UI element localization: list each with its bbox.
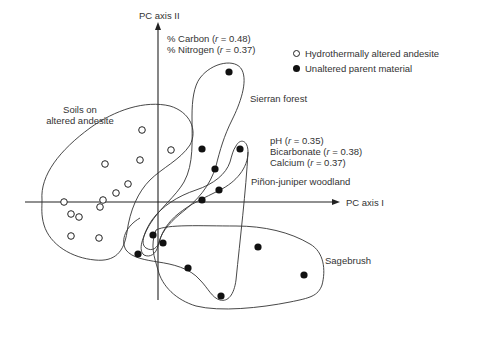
envelope-sierran-forest: [141, 63, 244, 256]
legend-item-unaltered: Unaltered parent material: [293, 63, 412, 74]
carbon-loading-label: % Carbon (r = 0.48): [167, 33, 251, 44]
filled-circle-icon: [293, 65, 300, 72]
open-circle-icon: [293, 50, 300, 57]
filled-point: [225, 68, 232, 75]
sierran-forest-label: Sierran forest: [250, 93, 307, 104]
nitrogen-loading-label: % Nitrogen (r = 0.37): [167, 44, 255, 55]
soils-group-label: Soils on altered andesite: [45, 104, 115, 126]
open-point: [113, 190, 120, 197]
filled-point: [198, 196, 205, 203]
calcium-loading-label: Calcium (r = 0.37): [270, 157, 346, 168]
pc1-axis-label: PC axis I: [346, 197, 384, 208]
bicarbonate-loading-label: Bicarbonate (r = 0.38): [270, 146, 362, 157]
filled-point: [184, 264, 191, 271]
open-point: [96, 235, 103, 242]
open-point: [137, 157, 144, 164]
open-point: [97, 204, 104, 211]
pc2-axis-label: PC axis II: [139, 10, 180, 21]
open-point: [61, 199, 68, 206]
pinon-juniper-label: Piñon-juniper woodland: [251, 176, 350, 187]
filled-point: [134, 250, 141, 257]
filled-point: [254, 243, 261, 250]
filled-point: [300, 271, 307, 278]
ph-loading-label: pH (r = 0.35): [270, 135, 324, 146]
envelope-soils-altered-andesite: [42, 104, 193, 260]
open-point: [102, 161, 109, 168]
envelope-sagebrush: [153, 226, 324, 309]
filled-point: [198, 145, 205, 152]
filled-point: [217, 292, 224, 299]
filled-point: [149, 231, 156, 238]
filled-point: [159, 239, 166, 246]
sagebrush-label: Sagebrush: [325, 255, 371, 266]
open-point: [76, 214, 83, 221]
open-point: [139, 127, 146, 134]
open-point: [168, 147, 175, 154]
filled-point: [215, 186, 222, 193]
pc2-arrowhead-icon: [155, 22, 161, 30]
open-point: [125, 181, 132, 188]
legend-item-altered: Hydrothermally altered andesite: [293, 48, 439, 59]
filled-point: [211, 165, 218, 172]
filled-point: [236, 145, 243, 152]
envelope-pinon-juniper-woodland: [143, 141, 248, 249]
series-hydrothermally-altered-andesite: [61, 127, 175, 242]
open-point: [68, 233, 75, 240]
open-point: [100, 197, 107, 204]
pca-ordination-diagram: PC axis II PC axis I % Carbon (r = 0.48)…: [0, 0, 480, 344]
open-point: [68, 211, 75, 218]
pc1-arrowhead-icon: [332, 199, 340, 205]
